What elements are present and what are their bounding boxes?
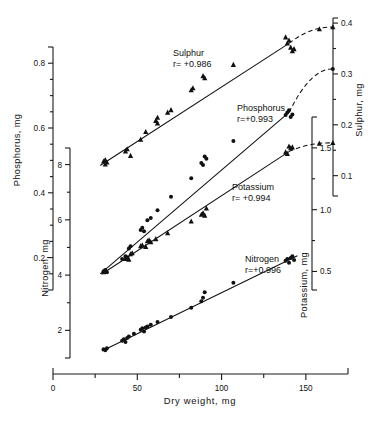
potassium-axis-ticklabel: 1.0 xyxy=(320,206,332,215)
x-ticklabel: 50 xyxy=(133,384,143,393)
data-point-phosphorus xyxy=(169,195,173,199)
potassium-axis-ticklabel: 0.5 xyxy=(320,267,332,276)
data-point-sulphur xyxy=(128,153,133,158)
nitrogen-axis-ticklabel: 6 xyxy=(57,216,62,225)
annotation-potassium: Potassiumr= +0.994 xyxy=(232,182,274,203)
data-point-phosphorus xyxy=(129,244,133,248)
data-point-phosphorus xyxy=(189,176,193,180)
potassium-axis: 0.51.01.5Potassium, mg xyxy=(299,117,332,318)
data-point-sulphur xyxy=(155,115,160,120)
nitrogen-axis: 2468Nitrogen, mg xyxy=(40,148,70,358)
data-point-phosphorus xyxy=(201,163,205,167)
sulphur-axis-ticklabel: 0.3 xyxy=(341,70,353,79)
annotation-nitrogen: Nitrogenr=+0.996 xyxy=(245,254,281,275)
nitrogen-axis-ticklabel: 4 xyxy=(57,271,62,280)
data-point-sulphur xyxy=(143,129,148,134)
x-tick-group: 050100150 xyxy=(51,368,348,393)
data-point-nitrogen xyxy=(189,306,193,310)
sulphur-axis: 0.10.20.30.4Sulphur, mg xyxy=(333,18,364,196)
sulphur-axis-title: Sulphur, mg xyxy=(354,83,364,136)
data-point-phosphorus xyxy=(156,208,160,212)
data-point-phosphorus xyxy=(149,216,153,220)
nitrogen-axis-title: Nitrogen, mg xyxy=(40,239,50,296)
sulphur-axis-ticklabel: 0.4 xyxy=(341,19,353,28)
data-point-nitrogen xyxy=(105,346,109,350)
phosphorus-axis-title: Phosphorus, mg xyxy=(12,114,22,187)
data-point-potassium xyxy=(189,218,194,223)
series-name-sulphur: Sulphur xyxy=(173,48,204,58)
data-point-nitrogen xyxy=(156,320,160,324)
x-ticklabel: 0 xyxy=(51,384,56,393)
potassium-axis-title: Potassium, mg xyxy=(299,252,309,318)
phosphorus-axis-ticklabel: 0.4 xyxy=(34,189,46,198)
x-ticklabel: 100 xyxy=(215,384,229,393)
potassium-axis-ticklabel: 1.5 xyxy=(320,144,332,153)
sulphur-axis-ticklabel: 0.2 xyxy=(341,121,353,130)
data-point-nitrogen xyxy=(199,299,203,303)
series-correlation-sulphur: r= +0.986 xyxy=(173,59,212,69)
data-point-nitrogen xyxy=(290,254,294,258)
data-point-nitrogen xyxy=(231,281,235,285)
annotation-sulphur: Sulphurr= +0.986 xyxy=(173,48,212,69)
data-point-sulphur xyxy=(283,34,288,39)
data-point-phosphorus xyxy=(142,229,146,233)
x-axis: 050100150 xyxy=(51,368,348,393)
data-point-phosphorus xyxy=(145,218,149,222)
data-point-sulphur xyxy=(168,107,173,112)
data-point-nitrogen xyxy=(149,323,153,327)
data-point-sulphur xyxy=(138,137,143,142)
series-name-phosphorus: Phosphorus xyxy=(237,103,286,113)
data-point-sulphur xyxy=(231,62,236,67)
axes-layer: 0.20.40.60.8Phosphorus, mg2468Nitrogen, … xyxy=(12,18,364,358)
data-point-nitrogen xyxy=(132,332,136,336)
plateau-curve-phosphorus xyxy=(289,69,333,112)
x-ticklabel: 150 xyxy=(299,384,313,393)
series-name-potassium: Potassium xyxy=(232,182,274,192)
scatter-plot: 0.20.40.60.8Phosphorus, mg2468Nitrogen, … xyxy=(0,0,373,428)
data-point-nitrogen xyxy=(169,315,173,319)
nitrogen-axis-ticklabel: 8 xyxy=(57,161,62,170)
data-point-nitrogen xyxy=(201,296,205,300)
data-point-phosphorus xyxy=(140,226,144,230)
series-name-nitrogen: Nitrogen xyxy=(245,254,279,264)
series-correlation-potassium: r= +0.994 xyxy=(232,193,271,203)
series-phosphorus xyxy=(100,67,335,274)
series-correlation-phosphorus: r=+0.993 xyxy=(237,114,273,124)
data-point-phosphorus xyxy=(331,67,335,71)
data-point-nitrogen xyxy=(203,290,207,294)
data-point-potassium xyxy=(330,140,335,145)
series-correlation-nitrogen: r=+0.996 xyxy=(245,265,281,275)
phosphorus-axis-ticklabel: 0.6 xyxy=(34,124,46,133)
nitrogen-axis-ticklabel: 2 xyxy=(57,326,62,335)
data-point-nitrogen xyxy=(287,261,291,265)
x-axis-label: Dry weight, mg xyxy=(164,395,236,406)
data-point-nitrogen xyxy=(292,258,296,262)
data-point-phosphorus xyxy=(287,108,291,112)
series-sulphur xyxy=(100,24,335,166)
data-point-phosphorus xyxy=(231,139,235,143)
data-point-phosphorus xyxy=(290,112,294,116)
data-point-nitrogen xyxy=(142,329,146,333)
data-point-nitrogen xyxy=(123,340,127,344)
data-point-nitrogen xyxy=(127,334,131,338)
plateau-curve-sulphur xyxy=(289,27,333,43)
phosphorus-axis-ticklabel: 0.8 xyxy=(34,59,46,68)
figure-container: 0.20.40.60.8Phosphorus, mg2468Nitrogen, … xyxy=(0,0,373,428)
sulphur-axis-ticklabel: 0.1 xyxy=(341,172,353,181)
data-point-phosphorus xyxy=(204,157,208,161)
annotation-phosphorus: Phosphorusr=+0.993 xyxy=(237,103,286,124)
